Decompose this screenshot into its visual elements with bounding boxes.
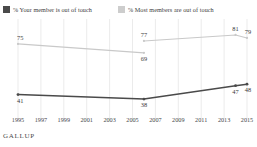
gridlines [18, 19, 247, 119]
legend-label-most-members: % Most members are out of touch [128, 6, 214, 13]
legend-swatch-most-members [118, 6, 125, 13]
x-tick-label: 2011 [195, 116, 207, 123]
svg-text:41: 41 [17, 97, 23, 104]
x-tick-label: 1995 [12, 116, 24, 123]
chart-legend: % Your member is out of touch % Most mem… [0, 0, 257, 19]
svg-text:47: 47 [232, 88, 239, 95]
x-tick-label: 1999 [58, 116, 70, 123]
legend-label-your-member: % Your member is out of touch [13, 6, 92, 13]
chart-plot-area: 756977817941384748 [0, 19, 257, 119]
svg-text:81: 81 [232, 25, 238, 32]
svg-text:38: 38 [141, 101, 147, 108]
svg-text:79: 79 [245, 28, 251, 35]
x-tick-label: 2013 [218, 116, 230, 123]
legend-swatch-your-member [3, 6, 10, 13]
svg-text:75: 75 [17, 34, 23, 41]
legend-item-your-member: % Your member is out of touch [3, 6, 92, 13]
line-chart-svg: 756977817941384748 [0, 19, 257, 119]
x-tick-label: 2007 [149, 116, 161, 123]
x-axis: 1995199719992001200320052007200920112013… [0, 116, 257, 130]
x-tick-label: 2003 [103, 116, 115, 123]
svg-text:69: 69 [141, 55, 147, 62]
svg-text:77: 77 [141, 31, 148, 38]
x-tick-label: 2001 [81, 116, 93, 123]
legend-item-most-members: % Most members are out of touch [118, 6, 214, 13]
x-tick-label: 1997 [35, 116, 47, 123]
x-tick-label: 2009 [172, 116, 184, 123]
chart-footer: GALLUP [0, 131, 257, 147]
svg-text:48: 48 [245, 86, 251, 93]
x-tick-label: 2015 [241, 116, 253, 123]
x-tick-label: 2005 [126, 116, 138, 123]
gallup-wordmark: GALLUP [3, 132, 35, 140]
